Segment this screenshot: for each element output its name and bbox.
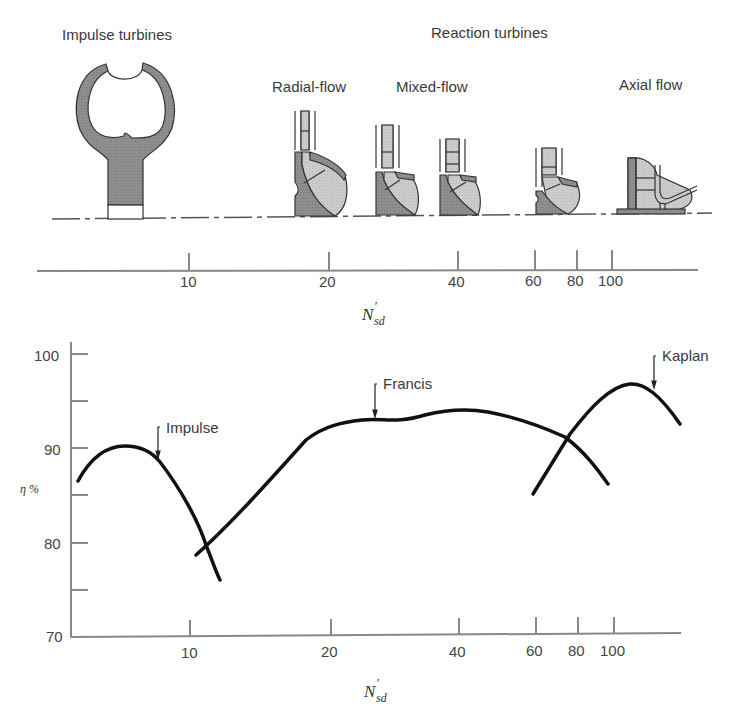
svg-text:sd: sd — [374, 314, 386, 328]
top-tick-40: 40 — [448, 273, 465, 290]
svg-text:′: ′ — [374, 298, 377, 313]
top-axis-label: N ′ sd — [361, 298, 386, 328]
mixed-flow-turbine-drawing-1 — [376, 125, 418, 215]
svg-text:N: N — [363, 682, 377, 701]
axial-flow-label: Axial flow — [619, 76, 683, 93]
top-tick-100: 100 — [598, 272, 623, 289]
y-tick-90: 90 — [44, 441, 61, 458]
impulse-turbines-label: Impulse turbines — [62, 26, 172, 43]
efficiency-chart-axes — [71, 342, 681, 638]
x-tick-80: 80 — [568, 642, 585, 659]
radial-flow-label: Radial-flow — [272, 78, 346, 95]
top-tick-10: 10 — [180, 273, 197, 290]
reaction-turbines-label: Reaction turbines — [431, 24, 548, 41]
top-tick-60: 60 — [525, 272, 542, 289]
top-tick-80: 80 — [567, 272, 584, 289]
x-axis-label: N ′ sd — [363, 675, 388, 705]
francis-curve — [196, 410, 608, 555]
impulse-curve-label: Impulse — [166, 419, 219, 436]
svg-text:sd: sd — [376, 691, 388, 705]
x-tick-20: 20 — [321, 643, 338, 660]
kaplan-curve — [533, 384, 680, 494]
impulse-turbine-drawing — [76, 63, 174, 219]
mixed-flow-turbine-drawing-2 — [440, 139, 480, 215]
mixed-flow-label: Mixed-flow — [396, 78, 468, 95]
impulse-curve — [78, 446, 220, 580]
top-nsd-axis — [37, 250, 698, 271]
kaplan-annotation-arrow — [652, 356, 656, 388]
mixed-flow-turbine-drawing-3 — [536, 148, 580, 214]
francis-curve-label: Francis — [383, 375, 432, 392]
x-tick-60: 60 — [526, 642, 543, 659]
y-tick-80: 80 — [44, 535, 61, 552]
turbine-diagram: Impulse turbines Reaction turbines Radia… — [0, 0, 737, 725]
x-tick-100: 100 — [600, 642, 625, 659]
kaplan-curve-label: Kaplan — [662, 347, 709, 364]
y-tick-100: 100 — [34, 347, 59, 364]
impulse-annotation-arrow — [156, 427, 160, 458]
x-tick-40: 40 — [449, 643, 466, 660]
francis-annotation-arrow — [373, 384, 377, 417]
svg-text:N: N — [361, 305, 375, 324]
y-axis-label: η % — [20, 482, 39, 496]
svg-text:′: ′ — [376, 675, 379, 690]
x-tick-10: 10 — [181, 644, 198, 661]
axial-flow-turbine-drawing — [617, 158, 697, 214]
y-tick-70: 70 — [46, 628, 63, 645]
top-tick-20: 20 — [319, 273, 336, 290]
radial-flow-turbine-drawing — [295, 111, 347, 216]
